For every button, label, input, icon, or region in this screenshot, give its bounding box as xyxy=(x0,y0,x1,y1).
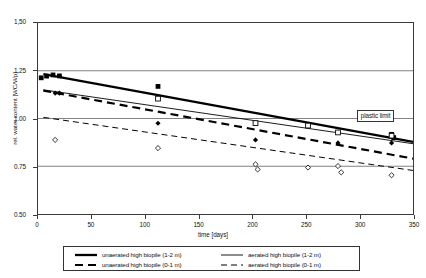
marker-open-diamond xyxy=(339,170,344,175)
marker-filled-diamond xyxy=(253,137,258,142)
x-tick-mark xyxy=(145,215,146,219)
x-tick-mark xyxy=(91,215,92,219)
marker-filled-square xyxy=(39,75,44,80)
marker-open-diamond xyxy=(255,167,260,172)
marker-open-diamond xyxy=(155,146,160,151)
x-tick-label: 50 xyxy=(87,221,94,228)
x-tick-mark xyxy=(37,215,38,219)
x-tick-label: 200 xyxy=(247,221,257,228)
x-tick-label: 300 xyxy=(355,221,365,228)
legend-label: unaerated high biopile (1-2 m) xyxy=(102,251,182,259)
chart-legend: unaerated high biopile (1-2 m)aerated hi… xyxy=(63,246,360,271)
marker-filled-square xyxy=(44,74,49,79)
marker-filled-square xyxy=(57,74,62,79)
plastic-limit-annotation: plastic limit xyxy=(357,110,395,122)
x-axis-title: time [days] xyxy=(0,231,426,238)
marker-filled-square xyxy=(156,84,161,89)
x-tick-label: 250 xyxy=(301,221,311,228)
x-tick-label: 150 xyxy=(193,221,203,228)
legend-entry[interactable]: aerated high biopile (0-1 m) xyxy=(220,261,321,269)
x-tick-label: 100 xyxy=(140,221,150,228)
marker-filled-diamond xyxy=(335,140,340,145)
x-tick-label: 0 xyxy=(35,221,38,228)
legend-label: aerated high biopile (1-2 m) xyxy=(248,251,321,259)
marker-filled-diamond xyxy=(57,91,62,96)
x-tick-mark xyxy=(414,215,415,219)
y-axis-title: rel. water content [WC/Wp] xyxy=(11,44,18,174)
legend-entry[interactable]: unaerated high biopile (1-2 m) xyxy=(74,251,182,259)
marker-filled-square xyxy=(51,73,56,78)
x-tick-mark xyxy=(252,215,253,219)
series-markers xyxy=(39,73,396,140)
marker-open-diamond xyxy=(253,162,258,167)
x-tick-mark xyxy=(306,215,307,219)
marker-open-diamond xyxy=(53,137,58,142)
legend-line-swatch xyxy=(74,251,98,259)
marker-open-diamond xyxy=(389,173,394,178)
legend-entry[interactable]: aerated high biopile (1-2 m) xyxy=(220,251,321,259)
marker-open-diamond xyxy=(305,165,310,170)
marker-open-square xyxy=(306,123,311,128)
x-tick-mark xyxy=(360,215,361,219)
chart-root: 1,501.251.000.750.50 0501001502002503003… xyxy=(0,0,426,278)
plot-area: plastic limit xyxy=(37,22,414,215)
marker-open-square xyxy=(253,121,258,126)
marker-open-diamond xyxy=(335,163,340,168)
marker-open-square xyxy=(336,130,341,135)
legend-line-swatch xyxy=(220,251,244,259)
marker-open-square xyxy=(389,133,394,138)
marker-filled-diamond xyxy=(155,121,160,126)
series-markers xyxy=(53,91,395,146)
x-tick-label: 350 xyxy=(409,221,419,228)
x-tick-mark xyxy=(199,215,200,219)
legend-line-swatch xyxy=(220,261,244,269)
marker-open-square xyxy=(156,96,161,101)
legend-line-swatch xyxy=(74,261,98,269)
series-markers xyxy=(53,137,395,177)
legend-label: unaerated high biopile (0-1 m) xyxy=(102,261,182,269)
legend-entry[interactable]: unaerated high biopile (0-1 m) xyxy=(74,261,182,269)
marker-filled-diamond xyxy=(389,140,394,145)
legend-label: aerated high biopile (0-1 m) xyxy=(248,261,321,269)
